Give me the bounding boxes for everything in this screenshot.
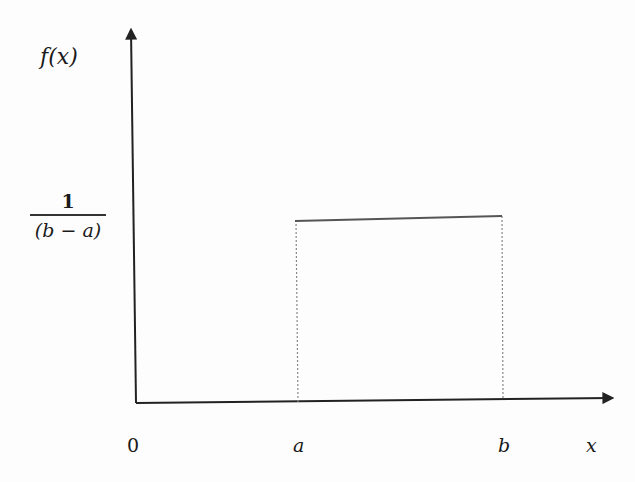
x-tick-a: a bbox=[293, 434, 304, 456]
fraction-numerator: 1 bbox=[30, 190, 106, 212]
height-label-fraction: 1 (b − a) bbox=[30, 190, 106, 241]
diagram-graphics bbox=[0, 0, 635, 482]
fraction-bar bbox=[30, 214, 106, 216]
y-axis bbox=[131, 30, 136, 403]
uniform-pdf-diagram: f(x) 1 (b − a) 0 a b x bbox=[0, 0, 635, 482]
y-axis-label: f(x) bbox=[40, 44, 78, 69]
density-line bbox=[295, 216, 502, 221]
fraction-denominator: (b − a) bbox=[30, 219, 106, 241]
x-tick-b: b bbox=[498, 434, 510, 456]
guide-line-b bbox=[502, 216, 503, 399]
x-axis bbox=[136, 398, 612, 403]
x-axis-label: x bbox=[586, 434, 597, 456]
x-tick-zero: 0 bbox=[127, 434, 139, 456]
guide-line-a bbox=[296, 220, 298, 402]
